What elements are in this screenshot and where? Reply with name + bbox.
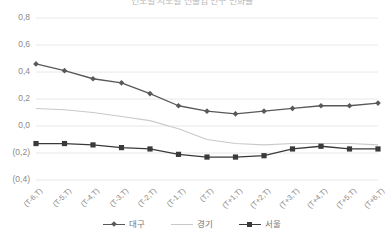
data-point-marker — [347, 146, 352, 151]
data-point-marker — [233, 111, 239, 117]
data-point-marker — [204, 108, 210, 114]
data-point-marker — [375, 100, 381, 106]
legend-swatch-icon — [103, 220, 125, 229]
data-point-marker — [176, 103, 182, 109]
data-point-marker — [290, 146, 295, 151]
data-point-marker — [33, 61, 39, 67]
data-point-marker — [33, 141, 38, 146]
data-point-marker — [204, 154, 209, 159]
data-point-marker — [90, 76, 96, 82]
legend-swatch-icon — [171, 220, 193, 229]
series-layer — [33, 61, 381, 160]
data-point-marker — [119, 80, 125, 86]
data-point-marker — [62, 141, 67, 146]
data-point-marker — [318, 144, 323, 149]
data-point-marker — [290, 106, 296, 112]
data-point-marker — [233, 154, 238, 159]
data-point-marker — [119, 145, 124, 150]
data-point-marker — [261, 108, 267, 114]
data-point-marker — [147, 146, 152, 151]
series-대구 — [33, 61, 381, 117]
legend-item-서울[interactable]: 서울 — [239, 219, 281, 229]
data-point-marker — [347, 103, 353, 109]
legend-item-경기[interactable]: 경기 — [171, 219, 213, 229]
data-point-marker — [62, 68, 68, 74]
legend-swatch-icon — [239, 220, 261, 229]
legend-label: 대구 — [129, 219, 145, 229]
data-point-marker — [176, 152, 181, 157]
legend-label: 경기 — [197, 219, 213, 229]
series-line — [36, 64, 378, 114]
data-point-marker — [375, 146, 380, 151]
data-point-marker — [147, 91, 153, 97]
data-point-marker — [318, 103, 324, 109]
chart-legend: 대구경기서울 — [0, 219, 384, 229]
data-point-marker — [90, 142, 95, 147]
legend-label: 서울 — [265, 219, 281, 229]
data-point-marker — [261, 153, 266, 158]
legend-item-대구[interactable]: 대구 — [103, 219, 145, 229]
